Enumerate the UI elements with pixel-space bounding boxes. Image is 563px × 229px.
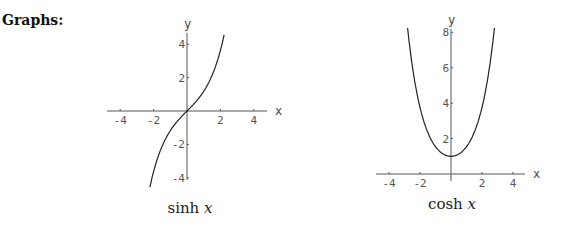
x-tick-label: 4 xyxy=(510,177,517,190)
sinh-plot: -4-22442-2-4xysinh x xyxy=(107,17,282,217)
x-tick-label: 4 xyxy=(250,114,257,127)
x-axis-label: x xyxy=(275,104,282,118)
y-tick-label: 2 xyxy=(442,133,449,146)
y-tick-label: -2 xyxy=(172,138,185,151)
y-tick-label: 8 xyxy=(442,26,449,39)
plots-canvas: -4-22442-2-4xysinh x -4-2248642xycosh x xyxy=(0,0,563,229)
y-tick-label: 4 xyxy=(178,38,185,51)
x-tick-label: -2 xyxy=(147,114,160,127)
y-tick-label: 6 xyxy=(442,62,449,75)
x-tick-label: -2 xyxy=(413,177,426,190)
y-tick-label: 2 xyxy=(178,72,185,85)
x-axis-label: x xyxy=(533,167,540,181)
x-tick-label: 2 xyxy=(217,114,224,127)
x-tick-label: -4 xyxy=(114,114,128,127)
cosh-caption: cosh x xyxy=(428,195,477,213)
cosh-plot: -4-2248642xycosh x xyxy=(376,13,540,213)
x-tick-label: 2 xyxy=(479,177,486,190)
x-tick-label: -4 xyxy=(382,177,396,190)
y-tick-label: 4 xyxy=(442,97,449,110)
y-axis-label: y xyxy=(184,17,191,31)
sinh-caption: sinh x xyxy=(167,199,213,217)
y-axis-label: y xyxy=(448,13,455,27)
y-tick-label: -4 xyxy=(172,172,186,185)
